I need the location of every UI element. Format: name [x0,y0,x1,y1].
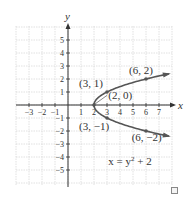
y-tick-label: 3 [60,62,64,71]
curve-arrow [162,73,170,78]
y-tick-label: −1 [55,114,64,123]
equation-suffix: + 2 [135,155,152,167]
point-label: (6, 2) [129,64,153,77]
x-axis-label: x [177,99,183,111]
point-label: (3, 1) [79,77,103,90]
point-label: (3, −1) [79,120,109,133]
equation-label: x = y2 + 2 [108,155,151,167]
curve-arrow [162,132,170,137]
parabola-chart: −3−2−11234567−5−4−3−2−112345 (2, 0)(3, 1… [0,0,188,201]
y-tick-label: −2 [55,127,64,136]
y-tick-label: −4 [55,153,64,162]
y-tick-label: −5 [55,166,64,175]
y-axis-label: y [64,10,70,22]
y-tick-label: 5 [60,36,64,45]
point-label: (6, −2) [132,131,162,144]
y-tick-label: 4 [60,49,64,58]
x-tick-label: 1 [79,108,83,117]
x-axis-arrow [170,103,176,108]
x-tick-label: −3 [25,108,34,117]
axes [16,23,176,187]
y-tick-label: 2 [60,75,64,84]
x-tick-label: 6 [144,108,148,117]
point-labels: (2, 0)(3, 1)(3, −1)(6, 2)(6, −2) [79,64,162,143]
equation-base: x = y [108,155,131,167]
x-tick-label: 4 [118,108,122,117]
x-tick-label: −2 [38,108,47,117]
y-tick-label: 1 [60,88,64,97]
x-tick-label: 7 [157,108,161,117]
y-axis-arrow [66,23,71,29]
point-label: (2, 0) [108,89,132,102]
x-tick-label: 3 [105,108,109,117]
data-point [144,77,148,81]
x-tick-label: 5 [131,108,135,117]
y-tick-label: −3 [55,140,64,149]
checkbox[interactable] [171,187,178,194]
